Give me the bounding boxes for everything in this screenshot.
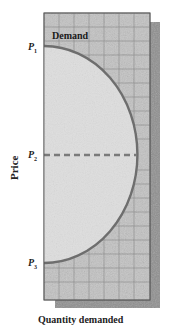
- x-axis-label: Quantity demanded: [38, 314, 123, 325]
- price-label-p3: P3: [28, 257, 37, 270]
- demand-label: Demand: [52, 30, 88, 41]
- price-label-p1: P1: [28, 41, 37, 54]
- y-axis-label: Price: [8, 156, 20, 180]
- price-label-p2: P2: [28, 149, 37, 162]
